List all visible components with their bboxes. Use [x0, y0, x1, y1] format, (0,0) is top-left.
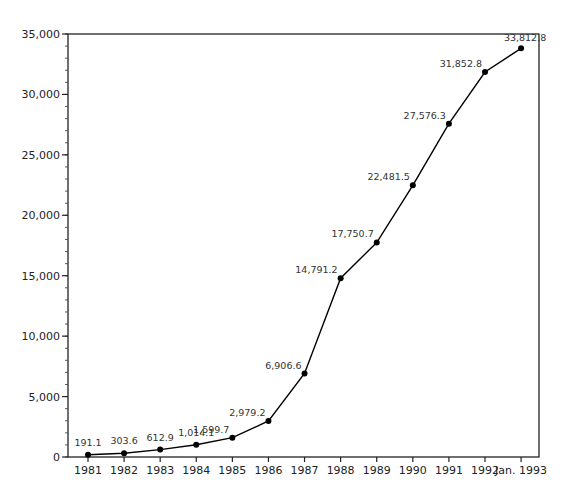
data-point-label: 6,906.6: [265, 360, 301, 371]
x-tick-label: 1981: [74, 464, 102, 477]
data-point-marker: [121, 450, 127, 456]
data-point-label: 1,599.7: [193, 424, 229, 435]
x-tick-label: 1984: [182, 464, 210, 477]
data-point-marker: [518, 45, 524, 51]
data-point-label: 191.1: [74, 437, 101, 448]
x-tick-label: 1987: [291, 464, 319, 477]
data-point-label: 14,791.2: [295, 264, 337, 275]
data-point-marker: [193, 442, 199, 448]
x-tick-label: Jan. 1993: [494, 464, 547, 477]
x-tick-label: 1988: [327, 464, 355, 477]
chart-canvas: 05,00010,00015,00020,00025,00030,00035,0…: [0, 0, 570, 502]
x-axis: 1981198219831984198519861987198819891990…: [74, 457, 547, 477]
y-tick-label: 35,000: [22, 28, 61, 41]
data-point-marker: [374, 239, 380, 245]
x-tick-label: 1991: [435, 464, 463, 477]
line-chart: 05,00010,00015,00020,00025,00030,00035,0…: [0, 0, 570, 502]
data-point-label: 303.6: [110, 435, 137, 446]
x-tick-label: 1985: [218, 464, 246, 477]
data-point-marker: [302, 371, 308, 377]
x-tick-label: 1982: [110, 464, 138, 477]
y-axis: 05,00010,00015,00020,00025,00030,00035,0…: [22, 28, 69, 464]
data-point-marker: [85, 452, 91, 458]
data-point-label: 31,852.8: [440, 58, 482, 69]
y-tick-label: 15,000: [22, 270, 61, 283]
data-point-label: 27,576.3: [404, 110, 446, 121]
y-tick-label: 10,000: [22, 330, 61, 343]
y-tick-label: 25,000: [22, 149, 61, 162]
data-point-marker: [338, 275, 344, 281]
data-point-marker: [229, 435, 235, 441]
data-point-marker: [265, 418, 271, 424]
y-tick-label: 30,000: [22, 88, 61, 101]
data-point-label: 22,481.5: [368, 171, 410, 182]
data-point-marker: [446, 121, 452, 127]
x-tick-label: 1983: [146, 464, 174, 477]
y-tick-label: 5,000: [29, 391, 61, 404]
x-tick-label: 1989: [363, 464, 391, 477]
x-tick-label: 1990: [399, 464, 427, 477]
data-point-label: 612.9: [147, 432, 174, 443]
data-series: 191.1303.6612.91,014.11,599.72,979.26,90…: [74, 32, 546, 457]
data-point-label: 2,979.2: [229, 407, 265, 418]
data-point-label: 33,812.8: [504, 32, 546, 43]
y-tick-label: 20,000: [22, 209, 61, 222]
data-point-label: 17,750.7: [331, 228, 373, 239]
y-tick-label: 0: [53, 451, 60, 464]
series-line: [88, 48, 521, 454]
data-point-marker: [482, 69, 488, 75]
plot-frame: [68, 34, 539, 457]
data-point-marker: [157, 447, 163, 453]
x-tick-label: 1986: [254, 464, 282, 477]
data-point-marker: [410, 182, 416, 188]
